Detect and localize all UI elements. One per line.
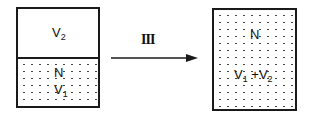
label-v1: V1 [54, 83, 68, 99]
arrow-right-icon [110, 53, 200, 63]
left-container: V2 N V1 [16, 7, 100, 108]
label-v2: V2 [52, 26, 66, 42]
process-label: III [141, 32, 154, 48]
upper-empty-region: V2 [18, 9, 98, 57]
right-container: N V1 +V2 [212, 8, 297, 111]
label-n: N [250, 28, 259, 41]
lower-gas-region: N V1 [18, 59, 98, 106]
label-n: N [54, 66, 63, 79]
label-v1-plus-v2: V1 +V2 [234, 68, 273, 84]
